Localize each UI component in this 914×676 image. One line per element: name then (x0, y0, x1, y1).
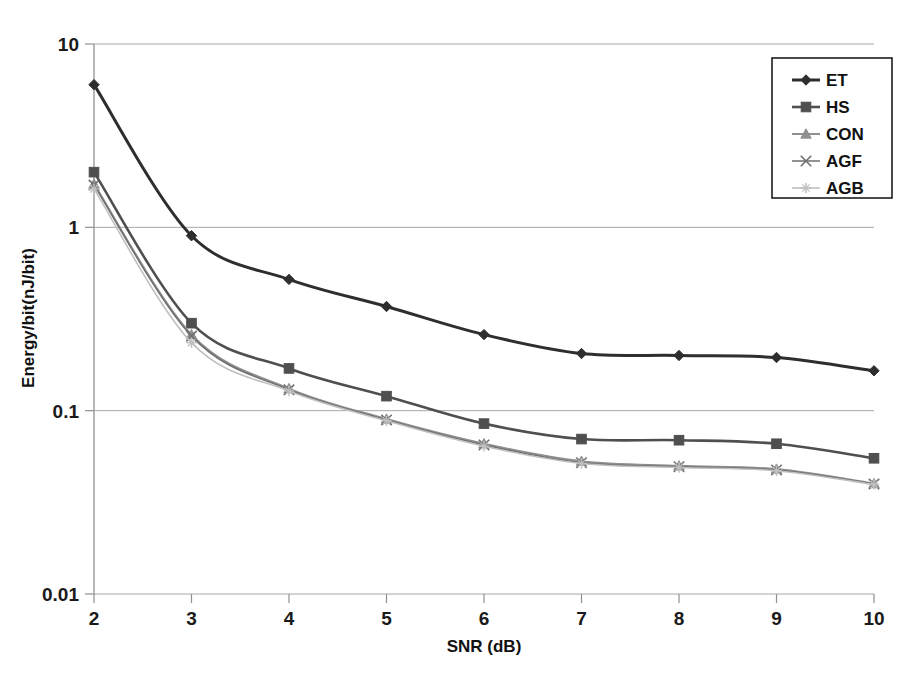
marker-star (479, 441, 489, 451)
marker-square (382, 391, 392, 401)
marker-star (869, 479, 879, 489)
marker-square (772, 439, 782, 449)
marker-square (284, 364, 294, 374)
marker-diamond (771, 352, 781, 362)
marker-star (381, 416, 391, 426)
marker-square (187, 318, 197, 328)
x-tick-marks (94, 594, 874, 603)
legend-label-agf: AGF (826, 152, 862, 171)
legend-label-hs: HS (826, 98, 850, 117)
x-tick-label: 10 (863, 608, 884, 629)
marker-diamond (381, 301, 391, 311)
series-line-hs (94, 172, 874, 458)
marker-diamond (869, 366, 879, 376)
marker-square (89, 167, 99, 177)
marker-square (869, 453, 879, 463)
x-tick-label: 5 (381, 608, 392, 629)
marker-diamond (674, 350, 684, 360)
series-hs (89, 167, 879, 463)
line-chart-plot: 1010.10.01 2345678910 SNR (dB) Energy/bi… (0, 0, 914, 676)
legend-label-agb: AGB (826, 179, 864, 198)
x-tick-labels: 2345678910 (89, 608, 885, 629)
legend-label-con: CON (826, 125, 864, 144)
x-tick-label: 9 (771, 608, 782, 629)
y-tick-marks (85, 44, 94, 594)
marker-square (801, 102, 811, 112)
legend: ETHSCONAGFAGB (772, 58, 892, 198)
legend-label-et: ET (826, 71, 848, 90)
x-tick-label: 6 (479, 608, 490, 629)
marker-star (801, 183, 811, 193)
marker-diamond (479, 329, 489, 339)
y-tick-label: 10 (58, 34, 79, 55)
y-tick-label: 1 (68, 217, 79, 238)
x-tick-label: 2 (89, 608, 100, 629)
marker-star (771, 466, 781, 476)
marker-square (674, 435, 684, 445)
gridlines-group (94, 44, 874, 594)
x-tick-label: 4 (284, 608, 295, 629)
data-series-group (89, 79, 879, 489)
x-tick-label: 3 (186, 608, 197, 629)
marker-diamond (576, 348, 586, 358)
x-tick-label: 7 (576, 608, 587, 629)
marker-diamond (284, 274, 294, 284)
marker-square (479, 419, 489, 429)
y-tick-label: 0.01 (42, 584, 79, 605)
marker-star (186, 337, 196, 347)
chart-container: 1010.10.01 2345678910 SNR (dB) Energy/bi… (0, 0, 914, 676)
marker-star (89, 184, 99, 194)
y-tick-labels: 1010.10.01 (42, 34, 79, 605)
marker-star (576, 458, 586, 468)
marker-star (284, 386, 294, 396)
marker-square (577, 434, 587, 444)
x-axis-title: SNR (dB) (447, 637, 522, 656)
x-tick-label: 8 (674, 608, 685, 629)
y-tick-label: 0.1 (53, 401, 80, 422)
y-axis-title: Energy/bit(nJ/bit) (19, 248, 38, 388)
